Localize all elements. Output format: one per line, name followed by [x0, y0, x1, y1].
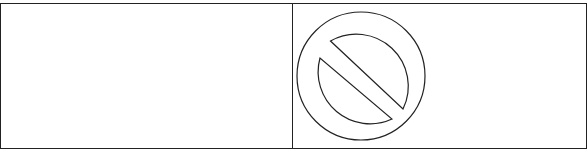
prohibition-icon — [295, 10, 431, 146]
diagram-frame — [0, 3, 587, 149]
right-panel — [293, 4, 586, 148]
left-panel — [1, 4, 293, 148]
